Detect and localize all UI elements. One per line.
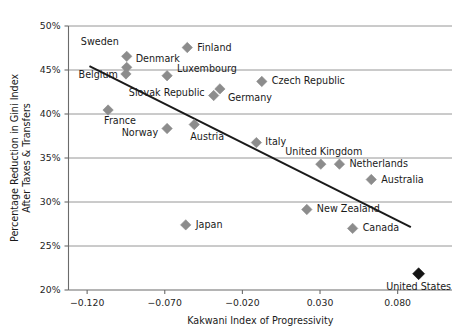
label-japan: Japan bbox=[195, 219, 223, 230]
y-axis-title-line2: After Taxes & Transfers bbox=[21, 103, 32, 213]
label-belgium: Belgium bbox=[79, 69, 118, 80]
label-denmark: Denmark bbox=[136, 53, 181, 64]
marker-italy bbox=[251, 137, 261, 147]
label-france: France bbox=[104, 115, 136, 126]
label-norway: Norway bbox=[122, 127, 159, 138]
label-new-zealand: New Zealand bbox=[317, 203, 380, 214]
marker-japan bbox=[181, 220, 191, 230]
x-tick-label-4: 0.080 bbox=[384, 297, 411, 308]
scatter-chart-figure: 20%25%30%35%40%45%50% −0.120−0.070−0.020… bbox=[0, 0, 476, 334]
label-italy: Italy bbox=[265, 136, 286, 147]
y-tick-label-1: 25% bbox=[40, 240, 61, 251]
label-united-states: United States bbox=[386, 281, 451, 292]
marker-norway bbox=[162, 123, 172, 133]
data-point-labels: SwedenDenmarkBelgiumFinlandLuxembourgSlo… bbox=[79, 36, 451, 291]
y-axis-title-line1: Percentage Reduction in Gini Index bbox=[9, 74, 20, 242]
marker-australia bbox=[366, 174, 376, 184]
label-czech-republic: Czech Republic bbox=[272, 75, 345, 86]
x-tick-label-1: −0.070 bbox=[148, 297, 182, 308]
chart-canvas: 20%25%30%35%40%45%50% −0.120−0.070−0.020… bbox=[0, 0, 476, 334]
x-axis-tick-labels: −0.120−0.070−0.0200.0300.080 bbox=[70, 297, 411, 308]
marker-canada bbox=[347, 223, 357, 233]
marker-united-states bbox=[413, 268, 425, 280]
label-canada: Canada bbox=[363, 222, 400, 233]
y-tick-label-2: 30% bbox=[40, 196, 61, 207]
y-tick-label-0: 20% bbox=[40, 284, 61, 295]
y-tick-label-6: 50% bbox=[40, 20, 61, 31]
label-germany: Germany bbox=[228, 92, 272, 103]
label-slovak-republic: Slovak Republic bbox=[129, 87, 205, 98]
y-tick-label-3: 35% bbox=[40, 152, 61, 163]
label-luxembourg: Luxembourg bbox=[177, 63, 237, 74]
marker-sweden bbox=[122, 51, 132, 61]
x-tick-label-0: −0.120 bbox=[70, 297, 104, 308]
label-australia: Australia bbox=[381, 174, 423, 185]
label-finland: Finland bbox=[197, 42, 231, 53]
x-tick-label-2: −0.020 bbox=[225, 297, 259, 308]
label-austria: Austria bbox=[190, 131, 224, 142]
marker-czech-republic bbox=[257, 76, 267, 86]
y-tick-label-4: 40% bbox=[40, 108, 61, 119]
x-axis-title: Kakwani Index of Progressivity bbox=[187, 315, 334, 326]
label-sweden: Sweden bbox=[81, 36, 119, 47]
x-tick-label-3: 0.030 bbox=[307, 297, 334, 308]
y-axis-tick-labels: 20%25%30%35%40%45%50% bbox=[40, 20, 61, 295]
marker-luxembourg bbox=[162, 71, 172, 81]
y-tick-label-5: 45% bbox=[40, 64, 61, 75]
label-netherlands: Netherlands bbox=[349, 158, 407, 169]
marker-new-zealand bbox=[302, 204, 312, 214]
marker-finland bbox=[182, 42, 192, 52]
marker-netherlands bbox=[334, 159, 344, 169]
marker-united-kingdom bbox=[316, 159, 326, 169]
label-united-kingdom: United Kingdom bbox=[285, 146, 362, 157]
